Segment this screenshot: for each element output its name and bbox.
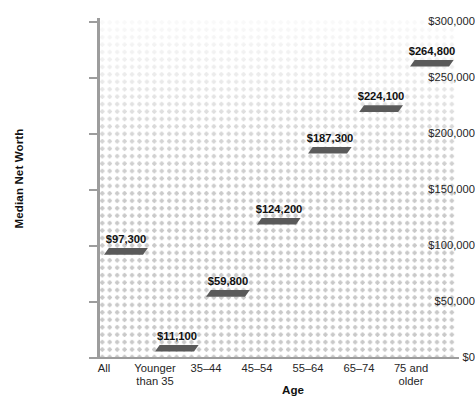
y-axis-tick-label: $100,000 bbox=[393, 239, 475, 251]
x-axis-category-label-45-54: 45–54 bbox=[235, 362, 279, 375]
bar-value-label: $97,300 bbox=[106, 233, 146, 245]
y-axis-line bbox=[97, 18, 100, 359]
bar-top-face bbox=[155, 345, 199, 352]
bar-value-label: $187,300 bbox=[307, 132, 354, 144]
y-axis-tick bbox=[89, 245, 97, 247]
bar-value-label: $11,100 bbox=[157, 330, 197, 342]
y-axis-tick bbox=[89, 77, 97, 79]
bar-chart: $97,300 $11,100 $59,800 $124,200 $187,30… bbox=[0, 0, 475, 410]
bar-top-face bbox=[257, 218, 301, 225]
x-axis-category-label-75-and-older: 75 and older bbox=[383, 362, 439, 387]
y-axis-tick-label: $250,000 bbox=[393, 71, 475, 83]
y-axis-tick bbox=[89, 21, 97, 23]
y-axis-title: Median Net Worth bbox=[12, 109, 25, 249]
bar-younger-than-35[interactable]: $11,100 bbox=[155, 345, 199, 358]
y-axis-tick-label: $200,000 bbox=[393, 127, 475, 139]
y-axis-tick bbox=[89, 357, 97, 359]
x-axis-category-label-65-74: 65–74 bbox=[337, 362, 381, 375]
bar-65-74[interactable]: $224,100 bbox=[359, 105, 403, 357]
x-axis-title: Age bbox=[228, 383, 358, 396]
x-axis-category-label-35-44: 35–44 bbox=[184, 362, 228, 375]
y-axis-tick bbox=[89, 301, 97, 303]
bar-top-face bbox=[104, 248, 148, 255]
bar-75-and-older[interactable]: $264,800 bbox=[410, 60, 454, 358]
y-axis-tick bbox=[89, 133, 97, 135]
bar-55-64[interactable]: $187,300 bbox=[308, 147, 352, 357]
x-axis-category-label-younger-than-35: Younger than 35 bbox=[122, 362, 188, 387]
bar-35-44[interactable]: $59,800 bbox=[206, 290, 250, 357]
bar-all[interactable]: $97,300 bbox=[104, 248, 148, 357]
bar-45-54[interactable]: $124,200 bbox=[257, 218, 301, 358]
x-axis-category-label-55-64: 55–64 bbox=[286, 362, 330, 375]
bar-top-face bbox=[410, 60, 454, 67]
bar-value-label: $224,100 bbox=[358, 90, 405, 102]
bar-value-label: $59,800 bbox=[208, 275, 248, 287]
y-axis-tick bbox=[89, 189, 97, 191]
bar-value-label: $124,200 bbox=[256, 203, 303, 215]
y-axis-tick-label: $150,000 bbox=[393, 183, 475, 195]
bar-top-face bbox=[206, 290, 250, 297]
x-axis-category-label-all: All bbox=[82, 362, 126, 375]
bar-top-face bbox=[308, 147, 352, 154]
bar-value-label: $264,800 bbox=[409, 45, 456, 57]
y-axis-tick-label: $300,000 bbox=[393, 15, 475, 27]
bar-top-face bbox=[359, 105, 403, 112]
y-axis-tick-label: $50,000 bbox=[393, 295, 475, 307]
